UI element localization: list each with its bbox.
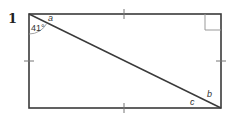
- diagonal-line: [29, 14, 221, 108]
- angle-c-label: c: [190, 97, 195, 107]
- angle-41-label: 41°: [31, 23, 45, 33]
- rectangle-diagram: 41° a b c: [0, 0, 235, 121]
- right-angle-marker: [205, 14, 221, 30]
- angle-b-label: b: [207, 89, 212, 99]
- angle-a-label: a: [48, 13, 53, 23]
